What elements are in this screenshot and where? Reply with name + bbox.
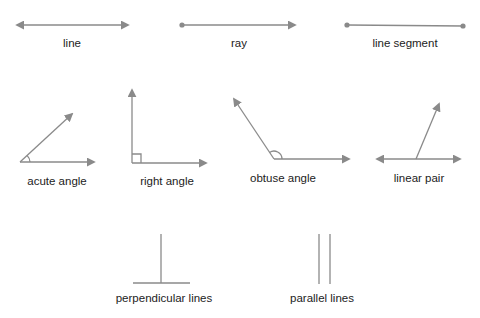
ray-figure [179, 22, 295, 27]
label-obtuse-angle: obtuse angle [250, 172, 316, 184]
label-acute-angle: acute angle [27, 175, 86, 187]
label-parallel-lines: parallel lines [290, 292, 354, 304]
label-right-angle: right angle [140, 175, 194, 187]
perpendicular-lines-figure [133, 234, 190, 283]
label-ray: ray [231, 37, 247, 49]
label-line-segment: line segment [372, 37, 437, 49]
label-linear-pair: linear pair [394, 172, 445, 184]
label-line: line [63, 37, 81, 49]
right-angle-figure [132, 90, 206, 163]
parallel-lines-figure [319, 234, 330, 284]
line-segment-figure [344, 22, 465, 28]
obtuse-angle-figure [234, 99, 349, 159]
label-perpendicular-lines: perpendicular lines [116, 292, 213, 304]
acute-angle-figure [20, 114, 94, 162]
linear-pair-figure [377, 104, 460, 159]
